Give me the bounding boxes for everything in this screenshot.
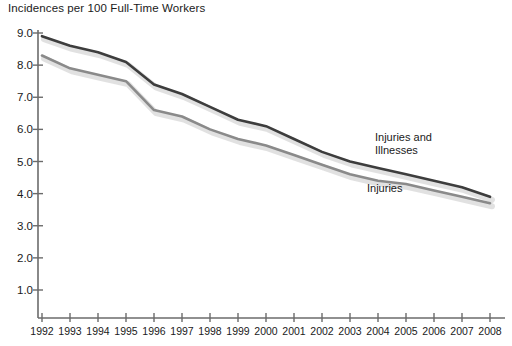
axes — [33, 30, 505, 322]
chart-container: Incidences per 100 Full-Time Workers 9.0… — [0, 0, 512, 346]
plot-area — [0, 0, 512, 346]
series-shadows — [44, 39, 492, 206]
series-annotation-injuries: Injuries — [367, 182, 402, 195]
series-shadow — [44, 39, 492, 200]
series-annotation-injuries-and-illnesses: Injuries and Illnesses — [375, 131, 432, 157]
